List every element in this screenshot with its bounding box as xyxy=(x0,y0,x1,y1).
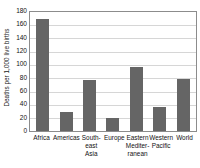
bar-slot xyxy=(172,12,195,132)
x-axis-tick-label-line: Africa xyxy=(30,134,53,142)
bar[interactable] xyxy=(177,79,190,131)
bars-layer xyxy=(30,12,196,132)
y-axis-tick-labels: 020406080100120140160180 xyxy=(12,0,29,134)
y-axis-tick-label: 100 xyxy=(16,61,27,68)
bar-chart: Deaths per 1,000 live births 02040608010… xyxy=(0,0,200,168)
bar[interactable] xyxy=(60,112,73,131)
x-axis-tick-label: EasternMediter-ranean xyxy=(126,133,149,168)
bar[interactable] xyxy=(36,19,49,131)
bar[interactable] xyxy=(130,67,143,131)
x-axis-tick-label: Europe xyxy=(103,133,126,168)
y-axis-tick-label: 120 xyxy=(16,48,27,55)
x-axis-tick-label-line: east xyxy=(80,142,103,150)
x-axis-tick-label-line: Pacific xyxy=(149,142,173,150)
bar-slot xyxy=(148,12,171,132)
x-axis-tick-label: South-eastAsia xyxy=(80,133,103,168)
y-axis-tick-label: 180 xyxy=(16,8,27,15)
y-axis-tick-label: 80 xyxy=(20,74,27,81)
y-axis-tick-label: 160 xyxy=(16,21,27,28)
x-axis-tick-label: Americas xyxy=(53,133,80,168)
x-axis-tick-label: World xyxy=(173,133,196,168)
bar-slot xyxy=(101,12,124,132)
x-axis-tick-label: WesternPacific xyxy=(149,133,173,168)
y-axis-tick-label: 60 xyxy=(20,88,27,95)
bar-slot xyxy=(54,12,77,132)
x-axis-tick-label-line: World xyxy=(173,134,196,142)
x-axis-tick-label: Africa xyxy=(30,133,53,168)
y-axis-title: Deaths per 1,000 live births xyxy=(0,0,12,134)
y-axis-tick-label: 20 xyxy=(20,114,27,121)
y-axis-tick-label: 140 xyxy=(16,34,27,41)
bar[interactable] xyxy=(153,107,166,131)
bar[interactable] xyxy=(106,118,119,131)
bar[interactable] xyxy=(83,80,96,131)
x-axis-tick-label-line: Western xyxy=(149,134,173,142)
x-axis-tick-label-line: South- xyxy=(80,134,103,142)
x-axis-tick-label-line: Europe xyxy=(103,134,126,142)
plot-area xyxy=(29,11,197,133)
x-axis-tick-labels: AfricaAmericasSouth-eastAsiaEuropeEaster… xyxy=(29,133,197,168)
bar-slot xyxy=(31,12,54,132)
y-axis-title-text: Deaths per 1,000 live births xyxy=(3,28,10,106)
x-axis-tick-label-line: Americas xyxy=(53,134,80,142)
x-axis-tick-label-line: Eastern xyxy=(126,134,149,142)
x-axis-tick-label-line: Mediter- xyxy=(126,142,149,150)
bar-slot xyxy=(78,12,101,132)
x-axis-tick-label-line: ranean xyxy=(126,150,149,158)
y-axis-tick-label: 40 xyxy=(20,101,27,108)
y-axis-tick-label: 0 xyxy=(23,128,27,135)
x-axis-tick-label-line: Asia xyxy=(80,150,103,158)
bar-slot xyxy=(125,12,148,132)
